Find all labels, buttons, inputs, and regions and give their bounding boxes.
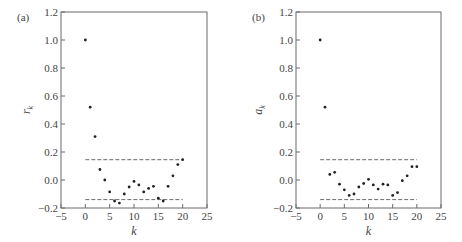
figure: −0.20.00.20.40.60.81.01.2−50510152025(a)…: [0, 0, 462, 242]
x-tick-label: 10: [129, 210, 141, 222]
data-point: [84, 39, 87, 42]
y-tick-label: 0.0: [279, 174, 293, 186]
data-point: [89, 106, 92, 109]
x-tick-label: −5: [55, 210, 67, 222]
data-point: [353, 193, 356, 196]
y-tick-label: 1.0: [44, 34, 58, 46]
x-tick-label: 15: [153, 210, 165, 222]
data-point: [348, 194, 351, 197]
data-point: [357, 186, 360, 189]
y-axis-label: rk: [19, 105, 35, 114]
data-point: [142, 191, 145, 194]
data-point: [113, 200, 116, 203]
chart-panel-b: −0.20.00.20.40.60.81.01.2−50510152025(b)…: [251, 6, 447, 238]
y-tick-label: 1.2: [279, 6, 293, 18]
plot-frame: [61, 12, 207, 208]
data-point: [128, 186, 131, 189]
data-point: [367, 178, 370, 181]
data-point: [411, 165, 414, 168]
data-point: [401, 179, 404, 182]
y-tick-label: 0.4: [279, 118, 293, 130]
y-tick-label: 0.0: [44, 174, 58, 186]
data-point: [137, 184, 140, 187]
data-point: [328, 173, 331, 176]
data-point: [147, 187, 150, 190]
x-tick-label: 20: [177, 210, 189, 222]
data-point: [386, 184, 389, 187]
x-axis-label: k: [131, 224, 137, 238]
y-tick-label: 0.2: [44, 146, 58, 158]
x-tick-label: 5: [342, 210, 348, 222]
data-point: [415, 165, 418, 168]
data-point: [176, 163, 179, 166]
y-tick-label: 0.2: [279, 146, 293, 158]
data-point: [94, 135, 97, 138]
data-point: [372, 184, 375, 187]
data-point: [133, 180, 136, 183]
x-tick-label: 25: [436, 210, 448, 222]
data-point: [362, 182, 365, 185]
data-point: [181, 158, 184, 161]
x-axis-label: k: [366, 224, 372, 238]
data-point: [123, 193, 126, 196]
y-tick-label: 1.2: [44, 6, 58, 18]
x-tick-label: −5: [290, 210, 302, 222]
y-axis-label: ak: [251, 105, 267, 115]
data-point: [162, 200, 165, 203]
data-point: [338, 183, 341, 186]
x-tick-label: 10: [363, 210, 375, 222]
data-point: [396, 191, 399, 194]
data-point: [382, 183, 385, 186]
data-point: [391, 194, 394, 197]
data-point: [99, 168, 102, 171]
y-tick-label: 0.8: [279, 62, 293, 74]
chart-canvas: −0.20.00.20.40.60.81.01.2−50510152025(a)…: [0, 0, 462, 242]
data-point: [118, 202, 121, 205]
y-tick-label: 0.8: [44, 62, 58, 74]
x-tick-label: 20: [411, 210, 423, 222]
panel-label: (a): [17, 11, 30, 24]
x-tick-label: 15: [387, 210, 399, 222]
data-point: [377, 188, 380, 191]
chart-panel-a: −0.20.00.20.40.60.81.01.2−50510152025(a)…: [17, 6, 213, 238]
data-point: [406, 174, 409, 177]
x-tick-label: 5: [107, 210, 113, 222]
y-tick-label: 0.6: [44, 90, 58, 102]
data-point: [172, 174, 175, 177]
data-point: [333, 171, 336, 174]
data-point: [167, 185, 170, 188]
data-point: [343, 188, 346, 191]
x-tick-label: 0: [317, 210, 323, 222]
x-tick-label: 0: [83, 210, 89, 222]
data-point: [103, 179, 106, 182]
y-tick-label: 1.0: [279, 34, 293, 46]
data-point: [324, 106, 327, 109]
panel-label: (b): [252, 11, 265, 24]
x-tick-label: 25: [202, 210, 214, 222]
data-point: [157, 197, 160, 200]
y-tick-label: 0.6: [279, 90, 293, 102]
data-point: [319, 39, 322, 42]
data-point: [152, 185, 155, 188]
y-tick-label: 0.4: [44, 118, 58, 130]
data-point: [108, 191, 111, 194]
